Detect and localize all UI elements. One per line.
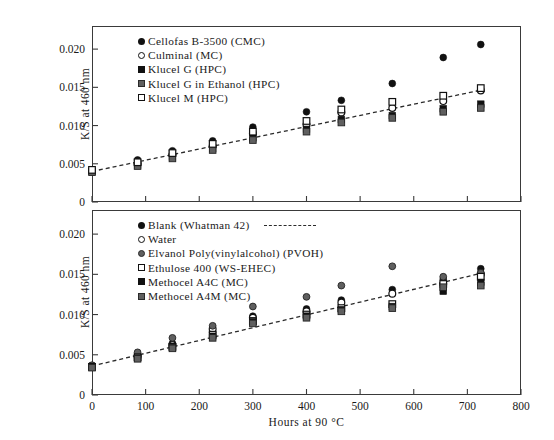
data-point	[250, 320, 257, 327]
data-point	[209, 335, 216, 342]
legend-item: Klucel G (HPC)	[134, 62, 280, 76]
x-tick-label: 100	[137, 400, 154, 412]
legend-item: Methocel A4C (MC)	[134, 275, 323, 289]
data-point	[440, 54, 447, 61]
x-tick-label: 0	[89, 400, 95, 412]
legend-label: Blank (Whatman 42)	[148, 218, 250, 232]
y-tick-label: 0	[79, 389, 85, 401]
legend-label: Methocel A4M (MC)	[148, 289, 251, 303]
legend-marker-filled-circle-icon	[134, 222, 148, 229]
data-point	[249, 303, 256, 310]
legend-trendline-swatch	[264, 225, 316, 226]
legend-label: Ethulose 400 (WS-EHEC)	[148, 261, 276, 275]
data-point	[389, 305, 396, 312]
y-tick-label: 0.005	[59, 158, 85, 170]
data-point	[338, 308, 345, 315]
legend-bottom: Blank (Whatman 42)WaterElvanol Poly(viny…	[134, 218, 323, 303]
data-point	[303, 128, 310, 135]
legend-item: Klucel G in Ethanol (HPC)	[134, 77, 280, 91]
chart-panel-top: K/S at 460 nm 00.0050.0100.0150.020 Cell…	[92, 26, 521, 202]
y-tick-label: 0.005	[59, 349, 85, 361]
legend-label: Water	[148, 232, 176, 246]
data-point	[89, 167, 96, 174]
data-point	[209, 141, 216, 148]
x-tick-label: 800	[512, 400, 529, 412]
y-axis-title-bottom: K/S at 460 nm	[79, 237, 91, 347]
legend-marker-open-square-icon	[134, 94, 148, 101]
legend-label: Klucel G in Ethanol (HPC)	[148, 77, 280, 91]
data-point	[440, 273, 447, 280]
x-tick-label: 500	[352, 400, 369, 412]
figure: K/S at 460 nm 00.0050.0100.0150.020 Cell…	[0, 0, 554, 440]
x-tick-label: 300	[244, 400, 261, 412]
legend-item: Water	[134, 232, 323, 246]
legend-marker-filled-square-icon	[134, 278, 148, 285]
data-point	[134, 356, 141, 363]
legend-item: Blank (Whatman 42)	[134, 218, 323, 232]
data-point	[209, 322, 216, 329]
data-point	[303, 314, 310, 321]
data-point	[389, 99, 396, 106]
data-point	[250, 137, 257, 144]
data-point	[250, 128, 257, 135]
x-tick-label: 700	[459, 400, 476, 412]
legend-label: Elvanol Poly(vinylalcohol) (PVOH)	[148, 246, 323, 260]
data-point	[389, 80, 396, 87]
legend-marker-filled-square-icon	[134, 66, 148, 73]
data-point	[169, 345, 176, 352]
data-point	[389, 290, 396, 297]
legend-marker-open-circle-icon	[134, 52, 148, 59]
x-tick-label: 200	[191, 400, 208, 412]
legend-item: Culminal (MC)	[134, 48, 280, 62]
y-axis-title-top: K/S at 460 nm	[79, 49, 91, 159]
legend-top: Cellofas B-3500 (CMC)Culminal (MC)Klucel…	[134, 34, 280, 105]
y-tick-label: 0.020	[59, 43, 85, 55]
legend-marker-gray-square-icon	[134, 293, 148, 300]
legend-item: Cellofas B-3500 (CMC)	[134, 34, 280, 48]
legend-marker-gray-square-icon	[134, 80, 148, 87]
y-tick-label: 0.015	[59, 81, 85, 93]
data-point	[389, 115, 396, 122]
data-point	[338, 119, 345, 126]
x-tick-label: 600	[405, 400, 422, 412]
data-point	[134, 159, 141, 166]
data-point	[477, 41, 484, 48]
x-axis-title: Hours at 90 °C	[92, 416, 521, 428]
data-point	[338, 97, 345, 104]
y-tick-label: 0.020	[59, 228, 85, 240]
data-point	[169, 334, 176, 341]
y-tick-label: 0.015	[59, 268, 85, 280]
data-point	[477, 282, 484, 289]
legend-marker-open-circle-icon	[134, 236, 148, 243]
data-point	[338, 106, 345, 113]
data-point	[303, 108, 310, 115]
legend-marker-filled-circle-icon	[134, 38, 148, 45]
data-point	[477, 105, 484, 112]
y-tick-label: 0.010	[59, 309, 85, 321]
data-point	[89, 364, 96, 371]
data-point	[440, 284, 447, 291]
data-point	[440, 108, 447, 115]
legend-item: Ethulose 400 (WS-EHEC)	[134, 261, 323, 275]
y-tick-label: 0.010	[59, 120, 85, 132]
legend-label: Cellofas B-3500 (CMC)	[148, 34, 265, 48]
chart-panel-bottom: K/S at 460 nm 00.0050.0100.0150.020 0100…	[92, 210, 521, 395]
legend-label: Methocel A4C (MC)	[148, 275, 248, 289]
data-point	[303, 118, 310, 125]
data-point	[389, 263, 396, 270]
legend-marker-open-square-icon	[134, 264, 148, 271]
legend-item: Klucel M (HPC)	[134, 91, 280, 105]
data-point	[338, 282, 345, 289]
legend-label: Klucel M (HPC)	[148, 91, 228, 105]
data-point	[169, 150, 176, 157]
legend-item: Methocel A4M (MC)	[134, 289, 323, 303]
legend-label: Culminal (MC)	[148, 48, 223, 62]
legend-marker-gray-circle-icon	[134, 250, 148, 257]
data-point	[440, 92, 447, 99]
legend-item: Elvanol Poly(vinylalcohol) (PVOH)	[134, 246, 323, 260]
x-tick-label: 400	[298, 400, 315, 412]
y-tick-label: 0	[79, 196, 85, 208]
legend-label: Klucel G (HPC)	[148, 62, 226, 76]
data-point	[477, 85, 484, 92]
